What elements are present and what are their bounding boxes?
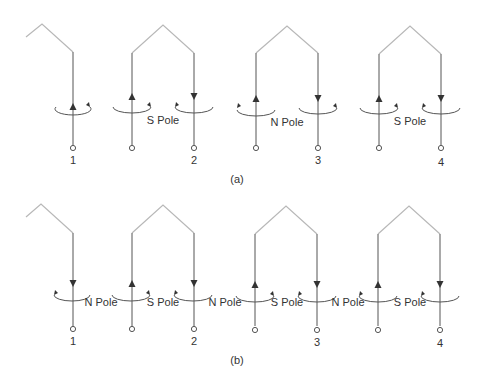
end-turn: [26, 204, 73, 233]
current-arrow-down-icon: [70, 280, 77, 287]
current-arrow-up-icon: [252, 281, 259, 288]
terminal-icon: [376, 145, 381, 150]
coil-3-b: [236, 206, 336, 333]
coil-number: 2: [191, 335, 197, 347]
end-turn: [132, 25, 194, 53]
end-turn: [255, 206, 317, 234]
diagram-a: 1 2 3 4 S Pole N Pole S Pole (a): [26, 24, 460, 185]
coil-1-b: [26, 204, 90, 332]
current-arrow-down-icon: [437, 281, 444, 288]
pole-label: S Pole: [271, 296, 303, 308]
coil-winding-diagram: 1 2 3 4 S Pole N Pole S Pole (a): [0, 0, 483, 384]
coil-2-b: [112, 205, 212, 332]
end-turn: [26, 24, 73, 52]
coil-number: 4: [438, 156, 444, 168]
curl-arrowhead-icon: [175, 102, 179, 107]
terminal-icon: [252, 327, 257, 332]
curl-arrowhead-icon: [146, 290, 150, 295]
pole-label: S Pole: [394, 296, 426, 308]
terminal-icon: [129, 145, 134, 150]
coil-3-a: [237, 26, 337, 151]
coil-1-a: [26, 24, 91, 151]
current-arrow-down-icon: [315, 95, 322, 102]
current-arrow-down-icon: [191, 280, 198, 287]
flux-curl-icon: [112, 295, 150, 301]
curl-arrowhead-icon: [174, 290, 178, 295]
current-arrow-up-icon: [129, 280, 136, 287]
curl-arrowhead-icon: [422, 103, 426, 108]
coil-4-a: [360, 26, 460, 151]
curl-arrowhead-icon: [86, 102, 90, 107]
coil-number: 4: [437, 337, 443, 349]
pole-label: S Pole: [147, 296, 179, 308]
end-turn: [256, 26, 318, 53]
terminal-icon: [437, 327, 442, 332]
terminal-icon: [191, 326, 196, 331]
curl-arrowhead-icon: [237, 103, 241, 108]
terminal-icon: [375, 327, 380, 332]
flux-curl-icon: [174, 295, 212, 301]
coil-number: 3: [314, 336, 320, 348]
terminal-icon: [438, 145, 443, 150]
coil-2-a: [113, 25, 213, 151]
pole-label: N Pole: [208, 296, 241, 308]
current-arrow-up-icon: [253, 95, 260, 102]
caption-a: (a): [230, 173, 243, 185]
coil-number: 1: [70, 335, 76, 347]
pole-label: S Pole: [394, 115, 426, 127]
pole-label: S Pole: [147, 114, 179, 126]
terminal-icon: [129, 326, 134, 331]
current-arrow-up-icon: [129, 93, 136, 100]
coil-4-b: [359, 206, 459, 333]
terminal-icon: [191, 145, 196, 150]
current-arrow-up-icon: [376, 95, 383, 102]
terminal-icon: [315, 145, 320, 150]
current-arrow-up-icon: [375, 281, 382, 288]
end-turn: [379, 26, 441, 54]
pole-label: N Pole: [84, 296, 117, 308]
terminal-icon: [70, 145, 75, 150]
terminal-icon: [314, 327, 319, 332]
current-arrow-down-icon: [70, 103, 77, 110]
terminal-icon: [70, 326, 75, 331]
current-arrow-down-icon: [191, 93, 198, 100]
current-arrow-down-icon: [438, 95, 445, 102]
curl-arrowhead-icon: [394, 103, 398, 108]
coil-number: 3: [315, 154, 321, 166]
end-turn: [132, 205, 194, 233]
coil-number: 2: [191, 154, 197, 166]
curl-arrowhead-icon: [333, 103, 337, 108]
pole-label: N Pole: [331, 296, 364, 308]
coil-number: 1: [70, 154, 76, 166]
current-arrow-down-icon: [314, 281, 321, 288]
end-turn: [378, 206, 440, 234]
diagram-b: 1 2 3 4 N Pole S Pole N Pole S Pole N Po…: [26, 204, 459, 366]
caption-b: (b): [230, 354, 243, 366]
terminal-icon: [253, 145, 258, 150]
curl-arrowhead-icon: [54, 290, 58, 295]
curl-arrowhead-icon: [147, 102, 151, 107]
pole-label: N Pole: [270, 116, 303, 128]
